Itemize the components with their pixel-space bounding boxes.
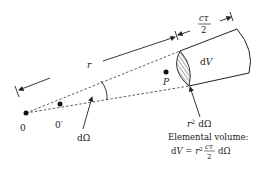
ctau-numerator: cτ bbox=[199, 13, 209, 23]
radar-volume-diagram: 0 0′ P r cτ 2 dV dΩ r2dΩ Elemental volum… bbox=[0, 0, 267, 170]
area-label: r2dΩ bbox=[187, 118, 211, 129]
range-label: r bbox=[87, 60, 92, 70]
origin-prime-dot bbox=[58, 102, 63, 107]
area-arrow bbox=[190, 87, 200, 117]
solid-angle-arrow bbox=[83, 97, 92, 129]
r-dim-tick-right bbox=[175, 31, 178, 40]
cone-lower-edge bbox=[26, 86, 189, 113]
formula-tail: dΩ bbox=[218, 146, 231, 156]
cone-upper-edge bbox=[26, 51, 180, 113]
point-p-dot bbox=[164, 70, 169, 75]
volume-label: dV bbox=[200, 57, 214, 67]
ctau-tick-right bbox=[230, 12, 233, 21]
formula-left: dV = r2 bbox=[171, 146, 203, 156]
r-dim-left bbox=[19, 78, 50, 90]
origin-dot bbox=[24, 111, 29, 116]
origin-label: 0 bbox=[20, 123, 26, 133]
solid-angle-label: dΩ bbox=[77, 133, 90, 143]
formula-frac-num: cτ bbox=[205, 143, 213, 151]
ctau-arrow-right bbox=[220, 17, 231, 21]
formula-frac-den: 2 bbox=[207, 153, 211, 161]
ctau-denominator: 2 bbox=[201, 25, 206, 35]
hatched-face bbox=[177, 51, 191, 86]
caption-title: Elemental volume: bbox=[168, 132, 249, 142]
point-p-label: P bbox=[162, 77, 170, 87]
r-dim-tick-left bbox=[15, 86, 19, 97]
solid-angle-arc bbox=[101, 81, 107, 100]
origin-prime-label: 0′ bbox=[55, 120, 63, 130]
ctau-arrow-left bbox=[178, 31, 190, 35]
